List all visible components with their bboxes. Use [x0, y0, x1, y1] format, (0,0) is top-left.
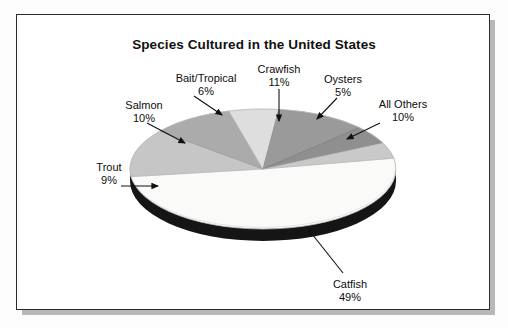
slice-label-bait-tropical-percent: 6%: [163, 85, 249, 98]
pie-slices: [130, 109, 396, 227]
slice-label-trout-percent: 9%: [81, 174, 137, 187]
slice-label-salmon-percent: 10%: [109, 112, 179, 125]
slice-label-oysters-name: Oysters: [324, 73, 362, 85]
chart-frame: Species Cultured in the United States: [16, 14, 490, 310]
slice-label-salmon: Salmon 10%: [109, 99, 179, 124]
slice-label-catfish-name: Catfish: [333, 278, 367, 290]
slice-label-crawfish-percent: 11%: [246, 76, 312, 89]
slice-label-oysters: Oysters 5%: [312, 73, 374, 98]
slice-label-catfish-percent: 49%: [317, 291, 383, 304]
leader-bait-tropical: [194, 96, 222, 115]
slice-label-catfish: Catfish 49%: [317, 278, 383, 303]
slice-label-bait-tropical: Bait/Tropical 6%: [163, 72, 249, 97]
slice-label-crawfish: Crawfish 11%: [246, 63, 312, 88]
leader-catfish: [308, 229, 343, 273]
slice-label-trout-name: Trout: [96, 161, 121, 173]
figure-root: Species Cultured in the United States: [0, 0, 508, 328]
slice-label-bait-tropical-name: Bait/Tropical: [176, 72, 237, 84]
slice-label-all-others-name: All Others: [379, 98, 427, 110]
slice-label-oysters-percent: 5%: [312, 86, 374, 99]
slice-label-all-others: All Others 10%: [364, 98, 442, 123]
slice-label-all-others-percent: 10%: [364, 111, 442, 124]
slice-label-crawfish-name: Crawfish: [258, 63, 301, 75]
slice-label-trout: Trout 9%: [81, 161, 137, 186]
slice-label-salmon-name: Salmon: [125, 99, 162, 111]
